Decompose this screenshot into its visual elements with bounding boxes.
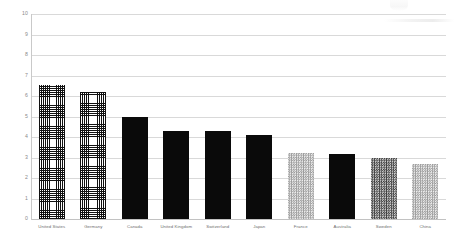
y-tick-label-1: 1: [2, 196, 28, 201]
x-axis-label: Sweden: [376, 224, 392, 229]
bar: [412, 164, 438, 219]
x-axis-label: Canada: [127, 224, 143, 229]
x-axis-label: China: [419, 224, 431, 229]
bar-chart: 012345678910 United StatesGermanyCanadaU…: [0, 0, 454, 252]
bar: [39, 85, 65, 219]
y-tick-label-4: 4: [2, 134, 28, 139]
y-tick-label-8: 8: [2, 52, 28, 57]
x-axis-label: Germany: [84, 224, 102, 229]
y-tick-label-3: 3: [2, 155, 28, 160]
y-tick-label-5: 5: [2, 114, 28, 119]
bar: [288, 153, 314, 219]
x-axis-label: France: [294, 224, 308, 229]
bar: [205, 131, 231, 219]
bar: [122, 117, 148, 220]
x-axis-label: Switzerland: [206, 224, 229, 229]
y-tick-label-10: 10: [2, 11, 28, 16]
y-tick-label-6: 6: [2, 93, 28, 98]
y-tick-label-9: 9: [2, 32, 28, 37]
bars-container: [31, 14, 446, 219]
top-right-artifact: [390, 0, 408, 11]
gridline-0: [31, 219, 446, 220]
y-tick-label-0: 0: [2, 216, 28, 221]
y-tick-label-2: 2: [2, 175, 28, 180]
bar: [80, 92, 106, 219]
x-axis-label: Australia: [334, 224, 351, 229]
x-axis-label: Japan: [253, 224, 265, 229]
bar: [329, 154, 355, 219]
y-axis-ticks: 012345678910: [0, 14, 28, 219]
x-axis-label: United States: [38, 224, 65, 229]
bar: [371, 158, 397, 220]
bar: [163, 131, 189, 219]
x-axis-label: United Kingdom: [160, 224, 192, 229]
bar: [246, 135, 272, 219]
x-axis-labels: United StatesGermanyCanadaUnited Kingdom…: [31, 224, 446, 238]
y-tick-label-7: 7: [2, 73, 28, 78]
